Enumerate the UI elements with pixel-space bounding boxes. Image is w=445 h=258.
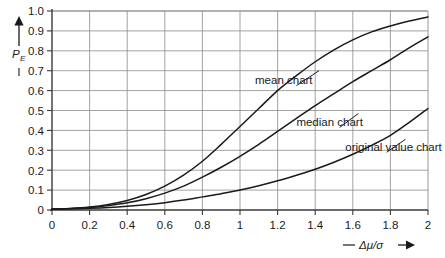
series-label-original-value-chart: original value chart [345,141,442,153]
series-label-mean-chart: mean chart [255,74,313,86]
y-tick-label-0.1: 0.1 [28,184,44,196]
x-tick-label-1: 1 [237,219,243,231]
y-tick-label-0.4: 0.4 [28,125,45,137]
x-axis-title-symbol: Δμ/σ [358,239,384,251]
y-axis-title-main: P [12,48,20,60]
x-tick-label-0.6: 0.6 [157,219,173,231]
x-axis-title-group: Δμ/σ [343,239,415,251]
y-tick-label-0: 0 [38,204,44,216]
axes [50,9,428,211]
x-tick-label-0: 0 [49,219,55,231]
series-annotations: mean chart median chart original value c… [255,71,443,154]
x-tick-labels: 0 0.2 0.4 0.6 0.8 1 1.2 1.4 1.6 1.8 2 [49,219,431,231]
y-tick-label-0.3: 0.3 [28,145,44,157]
oc-curve-chart: 1.0 0.9 0.8 0.7 0.6 0.5 0.4 0.3 0.2 0.1 … [0,0,445,258]
y-tick-label-0.8: 0.8 [28,45,44,57]
x-tick-label-0.8: 0.8 [194,219,210,231]
x-tick-label-1.8: 1.8 [382,219,398,231]
x-tick-label-1.6: 1.6 [345,219,361,231]
y-axis-arrow-head-icon [14,16,23,26]
y-tick-label-0.6: 0.6 [28,85,44,97]
y-tick-label-1.0: 1.0 [28,5,44,17]
x-tick-label-0.2: 0.2 [82,219,98,231]
x-tick-label-0.4: 0.4 [119,219,136,231]
y-tick-label-0.5: 0.5 [28,105,44,117]
chart-page: 1.0 0.9 0.8 0.7 0.6 0.5 0.4 0.3 0.2 0.1 … [0,0,445,258]
series-label-median-chart: median chart [296,116,363,128]
x-tick-label-1.4: 1.4 [307,219,324,231]
x-tick-label-2: 2 [425,219,431,231]
y-axis-title-subscript: E [20,54,26,63]
x-tickmarks [52,210,428,215]
y-tick-label-0.7: 0.7 [28,65,44,77]
y-axis-title-group: P E [12,16,26,76]
x-axis-arrow-head-icon [406,240,415,249]
y-tickmarks [47,11,52,210]
y-tick-labels: 1.0 0.9 0.8 0.7 0.6 0.5 0.4 0.3 0.2 0.1 … [28,5,45,216]
y-tick-label-0.9: 0.9 [28,25,44,37]
x-tick-label-1.2: 1.2 [270,219,286,231]
y-tick-label-0.2: 0.2 [28,165,44,177]
